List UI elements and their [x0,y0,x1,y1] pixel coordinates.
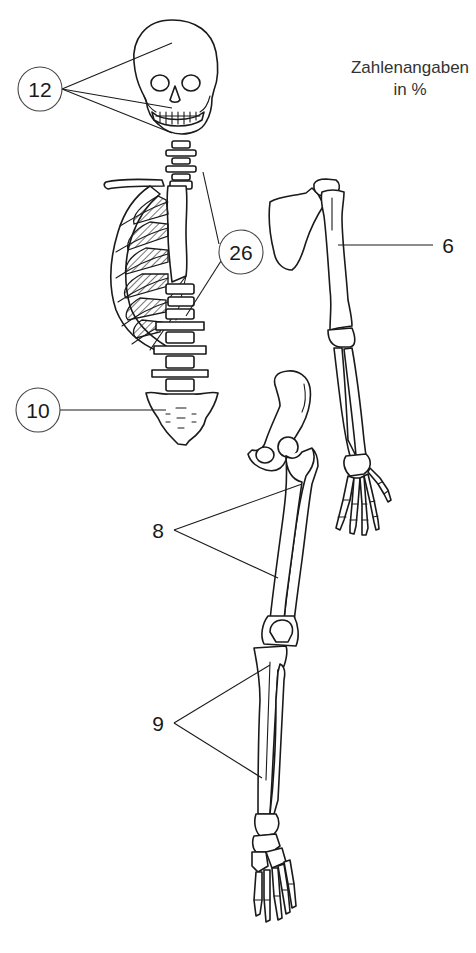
sacrum [146,392,218,445]
foot [252,834,296,922]
skeleton-diagram: Zahlenangaben in % [0,0,476,953]
label-trunk-value: 26 [229,241,252,264]
label-lower-leg-value: 9 [152,712,164,735]
label-pelvis: 10 [16,388,60,432]
label-pelvis-value: 10 [26,399,49,422]
caption-line-1: Zahlenangaben [351,58,469,77]
caption-line-2: in % [393,80,426,99]
label-thigh-value: 8 [152,519,164,542]
label-trunk: 26 [219,230,263,274]
label-arm: 6 [442,234,454,257]
label-skull: 12 [18,67,62,111]
label-skull-value: 12 [28,78,51,101]
label-lower-leg: 9 [152,712,164,735]
label-thigh: 8 [152,519,164,542]
hip-bone [248,371,311,471]
lower-leg [254,620,293,836]
leader-lines [60,43,433,778]
caption: Zahlenangaben in % [351,58,469,99]
label-arm-value: 6 [442,234,454,257]
skull [134,20,218,134]
cervical-spine [166,141,196,189]
